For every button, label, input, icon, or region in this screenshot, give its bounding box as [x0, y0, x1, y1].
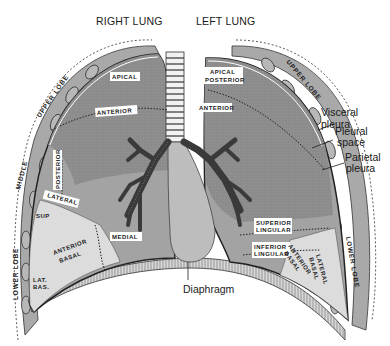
label-left-inferior: INFERIOR: [254, 244, 287, 250]
lung-anatomy-diagram: RIGHT LUNG LEFT LUNG: [0, 0, 390, 346]
callout-pleural-space-2: space: [337, 136, 365, 148]
callout-visceral-pleura-1: Visceral: [321, 106, 358, 118]
label-right-apical: APICAL: [112, 74, 137, 80]
label-right-lower-lobe: LOWER LOBE: [12, 248, 19, 300]
callout-parietal-pleura-2: pleura: [346, 162, 375, 174]
right-lung-title: RIGHT LUNG: [96, 15, 163, 27]
label-right-sup: SUP: [36, 213, 50, 219]
label-left-apical: APICAL: [210, 69, 235, 75]
label-right-lat-bas-1: LAT.: [33, 277, 47, 283]
label-left-superior: SUPERIOR: [256, 220, 292, 226]
label-left-superior-lingular: LINGULAR: [256, 227, 291, 233]
left-lung-title: LEFT LUNG: [196, 15, 255, 27]
trachea: [166, 52, 184, 142]
label-right-lat-bas-2: BAS.: [33, 284, 49, 290]
label-right-medial: MEDIAL: [112, 234, 138, 240]
label-left-anterior: ANTERIOR: [199, 105, 235, 111]
label-right-posterior: POSTERIOR: [55, 149, 61, 189]
callout-diaphragm: Diaphragm: [183, 283, 235, 295]
label-left-posterior: POSTERIOR: [205, 77, 245, 83]
